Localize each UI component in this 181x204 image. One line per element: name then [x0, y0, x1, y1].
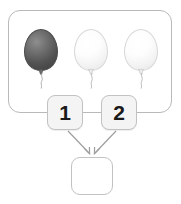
number-tile-2-value: 2 [113, 102, 125, 123]
answer-drop-box[interactable] [71, 157, 113, 195]
arrow-head-tile1 [84, 147, 89, 154]
balloon-group-frame [8, 10, 172, 113]
balloon-string-icon [35, 73, 49, 89]
number-tile-1-value: 1 [59, 102, 71, 123]
puzzle-canvas: 1 2 [0, 0, 181, 204]
balloon-body [74, 29, 108, 71]
balloon-string-icon [135, 73, 149, 89]
balloon-string-icon [85, 73, 99, 89]
balloon-3-white[interactable] [124, 29, 158, 73]
number-tile-1[interactable]: 1 [47, 95, 83, 130]
arrow-line-tile1 [68, 131, 89, 153]
arrow-head-tile2 [94, 147, 99, 154]
balloon-1-dark[interactable] [24, 29, 58, 73]
arrow-line-tile2 [95, 131, 116, 153]
number-tile-2[interactable]: 2 [101, 95, 137, 130]
balloon-2-white[interactable] [74, 29, 108, 73]
balloon-body [24, 29, 58, 71]
balloon-body [124, 29, 158, 71]
